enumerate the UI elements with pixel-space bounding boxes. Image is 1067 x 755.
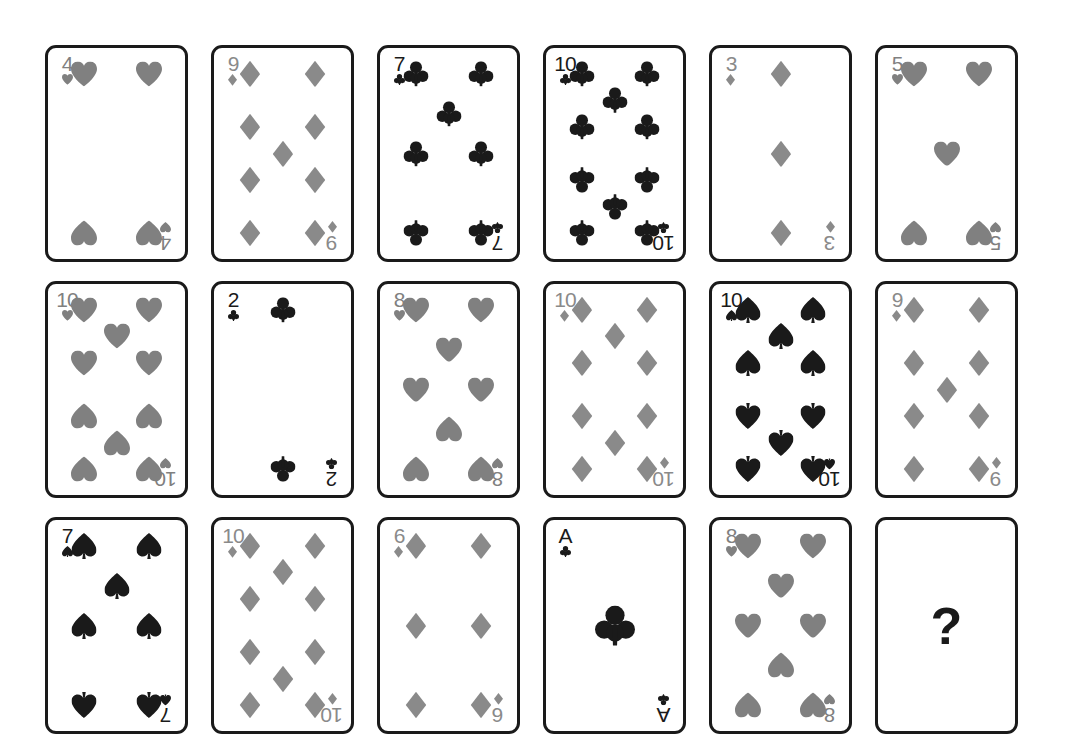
card-pip-field xyxy=(892,56,1001,251)
card-pip-field xyxy=(228,292,337,487)
card-pip-field xyxy=(394,528,503,723)
playing-card[interactable]: 1010 xyxy=(543,281,686,498)
diamond-pip xyxy=(637,456,658,483)
club-pip xyxy=(569,221,594,247)
heart-pip xyxy=(104,324,130,349)
heart-pip xyxy=(436,417,462,442)
heart-pip xyxy=(735,613,761,638)
heart-pip xyxy=(468,457,494,482)
spade-pip xyxy=(735,403,760,429)
heart-pip xyxy=(468,377,494,402)
diamond-pip xyxy=(572,350,593,377)
spade-pip xyxy=(137,533,162,559)
spade-pip xyxy=(137,692,162,718)
diamond-pip xyxy=(572,456,593,483)
card-pip-field xyxy=(394,292,503,487)
club-pip xyxy=(635,61,660,87)
spade-pip xyxy=(801,403,826,429)
card-pip-field xyxy=(560,528,669,723)
spade-pip xyxy=(735,456,760,482)
playing-card[interactable]: 88 xyxy=(709,517,852,734)
card-pip-field xyxy=(726,292,835,487)
heart-pip xyxy=(136,350,162,375)
club-pip xyxy=(469,141,494,167)
diamond-pip xyxy=(240,639,261,666)
playing-card[interactable]: AA xyxy=(543,517,686,734)
diamond-pip xyxy=(904,296,925,323)
spade-pip xyxy=(71,533,96,559)
playing-card[interactable]: 55 xyxy=(875,45,1018,262)
diamond-pip xyxy=(305,220,326,247)
diamond-pip xyxy=(904,403,925,430)
heart-pip xyxy=(136,457,162,482)
diamond-pip xyxy=(240,532,261,559)
spade-pip xyxy=(104,573,129,599)
heart-pip xyxy=(136,404,162,429)
club-pip xyxy=(569,61,594,87)
card-pip-field xyxy=(62,528,171,723)
card-pip-field xyxy=(228,528,337,723)
diamond-pip xyxy=(305,167,326,194)
heart-pip xyxy=(136,221,162,246)
playing-card[interactable]: 77 xyxy=(45,517,188,734)
diamond-pip xyxy=(406,532,427,559)
heart-pip xyxy=(71,457,97,482)
heart-pip xyxy=(436,337,462,362)
card-pip-field xyxy=(62,56,171,251)
club-pip xyxy=(602,194,627,220)
playing-card[interactable]: 44 xyxy=(45,45,188,262)
spade-pip xyxy=(801,456,826,482)
diamond-pip xyxy=(637,403,658,430)
playing-card[interactable]: 88 xyxy=(377,281,520,498)
card-pip-field xyxy=(228,56,337,251)
playing-card[interactable]: 33 xyxy=(709,45,852,262)
playing-card[interactable]: 1010 xyxy=(709,281,852,498)
diamond-pip xyxy=(572,403,593,430)
spade-pip xyxy=(801,350,826,376)
heart-pip xyxy=(800,533,826,558)
club-pip xyxy=(569,114,594,140)
card-pip-field xyxy=(726,528,835,723)
diamond-pip xyxy=(770,60,791,87)
diamond-pip xyxy=(471,692,492,719)
playing-card[interactable]: 1010 xyxy=(45,281,188,498)
heart-pip xyxy=(71,61,97,86)
club-pip xyxy=(635,221,660,247)
diamond-pip xyxy=(240,692,261,719)
diamond-pip xyxy=(637,296,658,323)
heart-pip xyxy=(901,221,927,246)
unknown-card[interactable]: ? xyxy=(875,517,1018,734)
diamond-pip xyxy=(471,612,492,639)
heart-pip xyxy=(468,297,494,322)
heart-pip xyxy=(768,573,794,598)
spade-pip xyxy=(735,350,760,376)
card-pip-field xyxy=(726,56,835,251)
diamond-pip xyxy=(604,323,625,350)
playing-card[interactable]: 66 xyxy=(377,517,520,734)
heart-pip xyxy=(71,350,97,375)
diamond-pip xyxy=(904,350,925,377)
playing-card[interactable]: 1010 xyxy=(543,45,686,262)
playing-card[interactable]: 99 xyxy=(875,281,1018,498)
club-pip xyxy=(635,167,660,193)
club-pip xyxy=(270,297,295,323)
heart-pip xyxy=(104,430,130,455)
spade-pip xyxy=(768,323,793,349)
club-pip xyxy=(403,141,428,167)
club-pip xyxy=(469,221,494,247)
heart-pip xyxy=(966,221,992,246)
playing-card[interactable]: 1010 xyxy=(211,517,354,734)
heart-pip xyxy=(403,377,429,402)
card-pip-field xyxy=(560,292,669,487)
club-pip xyxy=(569,167,594,193)
card-pip-field xyxy=(892,292,1001,487)
playing-card[interactable]: 99 xyxy=(211,45,354,262)
heart-pip xyxy=(403,457,429,482)
playing-card[interactable]: 77 xyxy=(377,45,520,262)
heart-pip xyxy=(901,61,927,86)
playing-card[interactable]: 22 xyxy=(211,281,354,498)
diamond-pip xyxy=(305,639,326,666)
diamond-pip xyxy=(240,220,261,247)
diamond-pip xyxy=(272,559,293,586)
club-pip xyxy=(635,114,660,140)
